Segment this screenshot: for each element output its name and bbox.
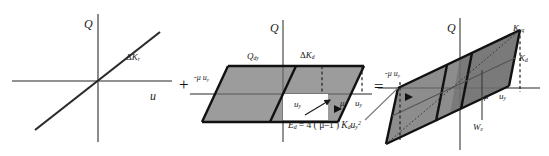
panel3-mu-label: μ bbox=[484, 92, 489, 101]
panel2-kd-subscript: d bbox=[312, 54, 315, 60]
panel3-y-axis-label: Q bbox=[447, 22, 456, 34]
panel3-we-subscript: e bbox=[481, 126, 483, 132]
panel3-keq-subscript: eq bbox=[519, 27, 524, 33]
panel3-keq-label: Keq bbox=[513, 24, 524, 34]
panel2-qdy-subscript: dy bbox=[254, 55, 259, 61]
panel1-y-axis-label: Q bbox=[84, 18, 93, 30]
panel2-neg-mu-uy-label: -μ uy bbox=[194, 74, 209, 83]
panel2-delta-kd-label: ΔKd bbox=[300, 51, 315, 61]
panel3-uy-subscript: y bbox=[504, 95, 506, 101]
panel2-uy-box-label: uy bbox=[294, 100, 301, 110]
panel3-kd-subscript: d bbox=[525, 57, 528, 63]
panel1-delta-kr-label: ΔKr bbox=[126, 53, 140, 63]
panel2-uy-subscript: y bbox=[299, 103, 301, 109]
panel1-k-subscript: r bbox=[138, 56, 140, 62]
panel3-neg-mu-uy-base: -μ u bbox=[385, 69, 398, 78]
panel3-we-label: We bbox=[473, 123, 483, 133]
panel2-y-axis-label: Q bbox=[270, 22, 279, 34]
panel2-energy-equation: Ed= 4 ( μ–1 )Kduy2 bbox=[288, 121, 361, 131]
panel3-we-base: W bbox=[473, 122, 481, 132]
panel2-uy2-subscript: y bbox=[360, 102, 362, 108]
panel3-neg-mu-uy-label: -μ uy bbox=[385, 70, 400, 79]
panel3-neg-mu-uy-subscript: y bbox=[398, 73, 400, 78]
hysteresis-decomposition-figure: Q u ΔKr + Q Qdy ΔKd -μ uy uy μ uy Ed= 4 … bbox=[0, 0, 549, 156]
panel2-mu-label: μ bbox=[340, 99, 345, 108]
panel3-uy-label: uy bbox=[499, 92, 506, 102]
panel2-neg-mu-uy-subscript: y bbox=[207, 77, 209, 82]
panel2-qdy-label: Qdy bbox=[247, 52, 259, 62]
panel1-x-axis-label: u bbox=[150, 90, 156, 102]
panel3-graph bbox=[365, 18, 540, 150]
panel1-graph bbox=[12, 14, 172, 142]
panel2-neg-mu-uy-base: -μ u bbox=[194, 73, 207, 82]
panel2-eq-u-superscript: 2 bbox=[358, 120, 361, 126]
panel3-kd-label: Kd bbox=[519, 54, 528, 64]
equals-operator: = bbox=[374, 78, 384, 95]
panel2-uy-box bbox=[283, 94, 328, 120]
panel2-uy2-label: uy bbox=[355, 99, 362, 109]
panel2-eq-sign: = 4 ( μ–1 ) bbox=[297, 120, 342, 130]
plus-operator: + bbox=[179, 76, 189, 93]
